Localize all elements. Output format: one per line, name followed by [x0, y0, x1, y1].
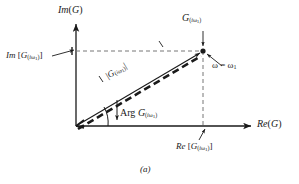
imaginary-axis-label: Im(G) — [58, 4, 82, 15]
re-proj-bracket-close: ] — [209, 141, 212, 151]
nyquist-phasor-figure: Im(G) Re(G) Im [G(iω1)] Re [G(iω1)] G(iω… — [0, 0, 299, 184]
arg-paren-close: ) — [155, 112, 157, 118]
real-projection-label: Re [G(iω1)] — [176, 141, 212, 152]
re-axis-paren-close: ) — [278, 118, 281, 129]
freq-equals: = — [220, 60, 225, 70]
magnitude-tick-right — [159, 41, 163, 47]
argument-label: Arg G(iω1) — [120, 107, 157, 119]
freq-one: 1 — [233, 64, 236, 70]
real-axis-label: Re(G) — [257, 118, 281, 129]
re-axis-word: Re — [257, 118, 268, 129]
im-axis-paren-close: ) — [79, 4, 82, 15]
im-proj-word: Im — [6, 50, 16, 60]
imaginary-projection-leader — [52, 50, 74, 56]
figure-caption: (a) — [140, 164, 151, 174]
arg-word: Arg — [120, 107, 135, 118]
argument-angle-arc — [104, 107, 108, 126]
imaginary-projection-label: Im [G(iω1)] — [6, 50, 42, 61]
point-paren-close: ) — [199, 17, 201, 23]
re-proj-word: Re — [176, 141, 186, 151]
figure-canvas — [0, 0, 299, 184]
real-projection-leader — [199, 129, 205, 140]
frequency-marker-label: ω = ω1 — [212, 60, 236, 70]
point-label: G(iω1) — [182, 12, 201, 24]
im-axis-word: Im — [58, 4, 69, 15]
magnitude-tick-left — [99, 76, 103, 82]
phasor-tip-point — [200, 48, 205, 53]
im-proj-bracket-close: ] — [39, 50, 42, 60]
freq-omega-left: ω — [212, 60, 218, 70]
